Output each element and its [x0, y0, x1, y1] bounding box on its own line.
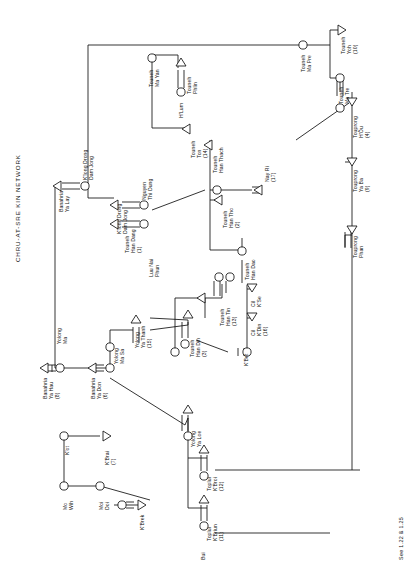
- kin-network-diagram: CHRU-AT-SRE KIN NETWORK See 1.22 & 1.25: [0, 0, 405, 576]
- person-node-female: [215, 273, 223, 281]
- person-label-n04: Nguyen Thi Dung: [141, 179, 153, 200]
- person-node-female: [60, 482, 68, 490]
- person-label-n27: Yolong Ma Sa: [113, 348, 125, 364]
- person-label-n28: Banahria Ya Don (6): [90, 378, 108, 399]
- person-node-male: [338, 25, 346, 35]
- person-label-n26: Yolong Ya Thanh (15): [134, 326, 152, 348]
- person-label-n20: Touprong Phan: [352, 236, 364, 258]
- person-label-n12: Touneh Han Tho (2): [222, 208, 240, 228]
- person-label-n05: Touneh Han Dang (1): [124, 229, 142, 253]
- person-label-n39: Bui: [200, 552, 206, 560]
- person-node-male: [247, 313, 257, 321]
- person-label-n09: H'Lum: [178, 103, 184, 118]
- person-node-female: [171, 348, 179, 356]
- descent-line: [150, 318, 188, 320]
- person-node-male: [138, 500, 146, 510]
- person-node-male: [40, 363, 48, 373]
- person-label-n18: Touprong H'Ôu (4): [352, 116, 370, 138]
- person-label-n34: Moi Doi: [98, 501, 110, 510]
- person-node-female: [118, 501, 126, 509]
- person-label-n38: Toplui K'Briun (11): [206, 524, 224, 541]
- person-node-female: [336, 104, 344, 112]
- person-label-n17: Touneh Ma Tre: [338, 87, 350, 104]
- person-label-n33: Mo Wih: [62, 501, 74, 510]
- person-label-n36: Yolong Ya Loe: [190, 431, 202, 447]
- person-label-n24: K'Bet: [243, 353, 249, 366]
- person-nodes: [40, 25, 357, 530]
- person-label-n02: K'long Drong Dam Jong: [82, 150, 94, 181]
- person-label-n14: Touneh Han Dao: [244, 259, 256, 280]
- person-label-n19: Touprong Ya Ba (9): [352, 170, 370, 192]
- person-label-n16: Touneh Yoh (10): [340, 37, 358, 54]
- person-node-male: [214, 195, 222, 205]
- person-node-male: [103, 431, 111, 441]
- person-node-male: [197, 293, 205, 303]
- person-node-female: [96, 482, 104, 490]
- person-label-n31: K'ot: [64, 446, 70, 455]
- person-node-male: [53, 181, 61, 191]
- person-node-male: [183, 405, 193, 413]
- person-node-female: [299, 41, 307, 49]
- person-label-n30: Yolong Ma: [56, 328, 68, 344]
- person-label-n11: Touneh Han Thach: [212, 147, 224, 173]
- person-label-n21: Touneh Han Tin (13): [219, 308, 237, 326]
- person-node-female: [336, 74, 344, 82]
- person-label-n08: Touneh Phlin: [186, 77, 198, 94]
- person-node-male: [254, 185, 262, 195]
- person-label-n32: K'Brai (7): [104, 451, 116, 465]
- person-node-female: [60, 432, 68, 440]
- person-label-n10: Touneh Ton (14): [190, 141, 208, 158]
- person-node-female: [56, 364, 64, 372]
- person-node-male: [247, 284, 257, 292]
- descent-line: [185, 418, 188, 425]
- person-node-female: [81, 182, 89, 190]
- descent-line: [110, 378, 185, 425]
- person-node-female: [226, 273, 234, 281]
- person-label-n15: Touneh Ma Pre: [300, 55, 312, 72]
- person-node-male: [182, 124, 190, 134]
- person-node-male: [176, 58, 186, 66]
- person-label-n06: Luu Nai Phun: [148, 259, 160, 277]
- person-node-male: [131, 315, 141, 323]
- person-node-female: [140, 201, 148, 209]
- person-node-female: [213, 186, 221, 194]
- descent-line: [152, 190, 205, 210]
- person-node-female: [148, 54, 156, 62]
- person-label-n22: Cil K'Se: [250, 296, 262, 307]
- descent-line: [100, 486, 150, 500]
- person-node-male: [347, 226, 357, 234]
- person-label-n25: Touneh Han Din (3): [189, 338, 207, 357]
- person-node-female: [177, 88, 185, 96]
- person-node-female: [106, 364, 114, 372]
- person-node-male: [88, 363, 96, 373]
- person-label-n29: Banahria Ya Hau (8): [42, 378, 60, 399]
- person-label-n13: Nay Ri (17): [264, 166, 276, 182]
- person-label-n01: Banahria Ya Lay: [58, 191, 70, 212]
- person-node-male: [183, 310, 193, 318]
- person-label-n23: Cil K'Din (16): [250, 323, 268, 336]
- person-node-female: [140, 220, 148, 228]
- person-label-n37: Toplui K'Broi (12): [206, 477, 224, 491]
- person-node-female: [238, 247, 246, 255]
- person-label-n35: K'Brek: [139, 515, 145, 530]
- person-node-male: [199, 495, 209, 503]
- person-label-n07: Touneh Ma Yan: [148, 69, 160, 87]
- person-node-female: [181, 340, 189, 348]
